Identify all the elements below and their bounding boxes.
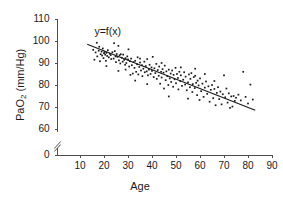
chart-axes [54, 19, 272, 155]
y-tick-label-60: 60 [24, 123, 50, 134]
y-tick-label-100: 100 [24, 35, 50, 46]
x-tick-label-50: 50 [164, 160, 188, 171]
x-tick-label-20: 20 [92, 160, 116, 171]
x-axis-label: Age [130, 180, 150, 192]
x-tick-label-90: 90 [260, 160, 283, 171]
scatter-points [92, 42, 253, 109]
y-tick-label-80: 80 [24, 79, 50, 90]
y-axis-label-subscript: 2 [19, 95, 28, 99]
regression-line [87, 44, 255, 110]
chart-annotation: y=f(x) [94, 25, 121, 37]
y-tick-label-110: 110 [24, 13, 50, 24]
x-tick-label-40: 40 [140, 160, 164, 171]
x-tick-label-10: 10 [68, 160, 92, 171]
y-tick-label-70: 70 [24, 101, 50, 112]
x-tick-label-60: 60 [188, 160, 212, 171]
x-tick-label-30: 30 [116, 160, 140, 171]
y-tick-label-0: 0 [24, 149, 50, 160]
x-tick-label-70: 70 [212, 160, 236, 171]
x-tick-label-80: 80 [236, 160, 260, 171]
y-tick-label-90: 90 [24, 57, 50, 68]
